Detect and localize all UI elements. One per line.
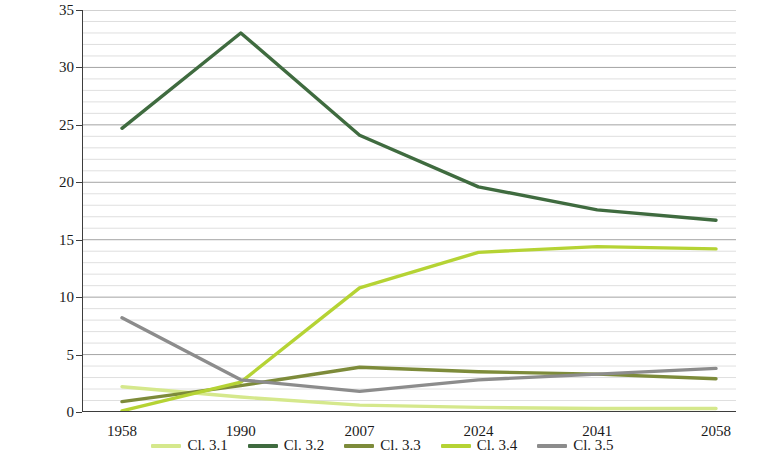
y-tick-label: 30	[59, 59, 74, 76]
y-tick-label: 25	[59, 116, 74, 133]
chart-container: LULCT area (% of total area) 05101520253…	[0, 0, 765, 473]
legend-swatch	[441, 444, 471, 448]
y-tick-mark	[76, 297, 82, 298]
plot-area: 05101520253035 195819902007202420412058	[82, 10, 736, 412]
legend-label: Cl. 3.5	[573, 437, 613, 454]
y-tick-label: 10	[59, 289, 74, 306]
axis-frame	[82, 10, 736, 412]
y-tick-mark	[76, 125, 82, 126]
legend-item: Cl. 3.5	[537, 437, 613, 454]
y-tick-label: 5	[67, 346, 75, 363]
legend-swatch	[344, 444, 374, 448]
y-tick-mark	[76, 10, 82, 11]
legend-swatch	[537, 444, 567, 448]
y-tick-label: 35	[59, 2, 74, 19]
legend-label: Cl. 3.1	[187, 437, 227, 454]
y-tick-mark	[76, 182, 82, 183]
legend-item: Cl. 3.2	[248, 437, 324, 454]
legend-label: Cl. 3.4	[477, 437, 517, 454]
y-tick-mark	[76, 240, 82, 241]
legend-swatch	[248, 444, 278, 448]
legend-label: Cl. 3.2	[284, 437, 324, 454]
y-tick-mark	[76, 412, 82, 413]
y-tick-mark	[76, 355, 82, 356]
legend-item: Cl. 3.3	[344, 437, 420, 454]
chart-legend: Cl. 3.1Cl. 3.2Cl. 3.3Cl. 3.4Cl. 3.5	[0, 437, 765, 454]
y-tick-label: 0	[67, 404, 75, 421]
y-tick-label: 20	[59, 174, 74, 191]
y-tick-label: 15	[59, 231, 74, 248]
legend-label: Cl. 3.3	[380, 437, 420, 454]
legend-item: Cl. 3.1	[151, 437, 227, 454]
legend-swatch	[151, 444, 181, 448]
legend-item: Cl. 3.4	[441, 437, 517, 454]
y-tick-mark	[76, 67, 82, 68]
